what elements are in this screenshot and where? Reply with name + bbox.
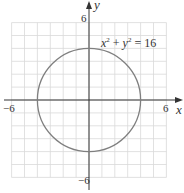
- y-axis-label: y: [92, 0, 100, 12]
- y-min-tick-label: −6: [78, 174, 90, 186]
- y-axis-arrow-icon: [86, 1, 92, 9]
- x-max-tick-label: 6: [163, 102, 169, 114]
- coordinate-plane: −6 6 6 −6 x y x2 + y2 = 16: [0, 0, 184, 193]
- x-axis-label: x: [175, 102, 182, 117]
- y-max-tick-label: 6: [81, 12, 87, 24]
- equation-label: x2 + y2 = 16: [100, 36, 156, 50]
- axes: [4, 1, 183, 190]
- x-min-tick-label: −6: [3, 102, 15, 114]
